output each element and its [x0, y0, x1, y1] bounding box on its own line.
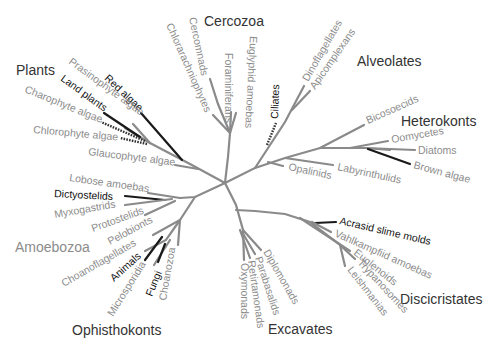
group-label-cercozoa: Cercozoa: [204, 13, 264, 29]
branch-bicosoecids: [320, 125, 364, 148]
branch-brown-algae: [368, 149, 410, 164]
branch-myxogastrids: [125, 199, 172, 205]
taxon-brown-algae: Brown algae: [412, 158, 472, 185]
group-label-amoebozoa: Amoebozoa: [15, 239, 90, 255]
taxon-diatoms: Diatoms: [418, 144, 457, 156]
branch-excavates: [225, 183, 244, 260]
group-label-alveolates: Alveolates: [357, 53, 422, 69]
taxon-glaucophyte-algae: Glaucophyte algae: [88, 145, 177, 168]
branch-unikonts: [180, 183, 225, 198]
taxon-chlorophyte-algae: Chlorophyte algae: [33, 123, 119, 142]
group-label-excavates: Excavates: [268, 321, 333, 337]
branch-dictyostelids: [125, 196, 165, 200]
branch-lobose: [148, 193, 180, 198]
taxon-foraminiferans: Foraminiferans: [223, 53, 235, 123]
taxon-euglyphid-amoebas: Euglyphid amoebas: [243, 36, 260, 129]
group-label-discicristates: Discicristates: [400, 291, 482, 307]
taxon-labyrinthulids: Labyrinthulids: [337, 160, 403, 185]
group-label-plants: Plants: [16, 62, 55, 78]
branch-protostelids: [145, 201, 175, 215]
branch-acrasid: [315, 222, 336, 223]
taxon-ciliates: Ciliates: [268, 84, 281, 119]
phylogenetic-tree: Cercozoa Alveolates Heterokonts Plants A…: [0, 0, 486, 347]
group-label-ophisthokonts: Ophisthokonts: [72, 322, 162, 338]
branch-oomycetes: [350, 141, 388, 148]
